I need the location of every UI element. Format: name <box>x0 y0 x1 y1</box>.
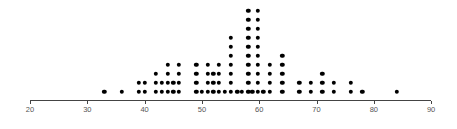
data-dot <box>154 72 158 76</box>
data-dot <box>194 90 198 94</box>
data-dot <box>331 81 335 85</box>
data-dot <box>211 72 215 76</box>
data-dot <box>256 81 260 85</box>
x-tick-label: 90 <box>427 105 435 114</box>
data-dot <box>320 81 324 85</box>
data-dot <box>154 81 158 85</box>
data-dot <box>246 18 250 22</box>
data-dot <box>280 54 284 58</box>
data-dot <box>119 90 123 94</box>
data-dot <box>177 72 181 76</box>
data-dot <box>267 90 271 94</box>
data-dot <box>205 63 209 67</box>
x-tick-label: 40 <box>140 105 148 114</box>
data-dot <box>205 81 209 85</box>
data-dot <box>246 63 250 67</box>
data-dot <box>194 72 198 76</box>
data-dot <box>165 72 169 76</box>
data-dot <box>246 36 250 40</box>
data-dot <box>280 72 284 76</box>
data-dot <box>177 90 181 94</box>
data-dot <box>142 90 146 94</box>
data-dot <box>246 54 250 58</box>
data-dot <box>256 72 260 76</box>
data-dot <box>102 90 106 94</box>
data-dot <box>211 90 215 94</box>
data-dot <box>320 90 324 94</box>
data-dot <box>228 36 232 40</box>
data-dot <box>395 90 399 94</box>
data-dot <box>246 27 250 31</box>
data-dot <box>256 45 260 49</box>
data-dot <box>205 72 209 76</box>
data-dot <box>223 90 227 94</box>
data-dot <box>256 90 260 94</box>
data-dot <box>246 9 250 13</box>
data-dot <box>228 45 232 49</box>
x-tick-label: 80 <box>370 105 378 114</box>
data-dot <box>320 72 324 76</box>
data-dot <box>171 90 175 94</box>
x-tick-label: 70 <box>312 105 320 114</box>
data-dot <box>171 81 175 85</box>
x-tick <box>431 101 432 104</box>
data-dot <box>246 72 250 76</box>
x-tick <box>87 101 88 104</box>
data-dot <box>165 63 169 67</box>
data-dot <box>267 72 271 76</box>
data-dot <box>177 63 181 67</box>
data-dot <box>177 81 181 85</box>
data-dot <box>280 90 284 94</box>
data-dot <box>256 27 260 31</box>
x-tick <box>202 101 203 104</box>
data-dot <box>228 72 232 76</box>
data-dot <box>205 90 209 94</box>
data-dot <box>256 18 260 22</box>
data-dot <box>256 36 260 40</box>
data-dot <box>217 90 221 94</box>
x-tick-label: 30 <box>83 105 91 114</box>
data-dot <box>250 90 254 94</box>
x-tick <box>317 101 318 104</box>
data-dot <box>160 81 164 85</box>
x-tick-label: 20 <box>26 105 34 114</box>
data-dot <box>349 90 353 94</box>
data-dot <box>309 90 313 94</box>
data-dot <box>228 81 232 85</box>
x-tick <box>145 101 146 104</box>
data-dot <box>267 63 271 67</box>
data-dot <box>331 90 335 94</box>
data-dot <box>228 54 232 58</box>
data-dot <box>211 81 215 85</box>
x-tick-label: 60 <box>255 105 263 114</box>
x-tick <box>259 101 260 104</box>
data-dot <box>228 63 232 67</box>
data-dot <box>267 81 271 85</box>
data-dot <box>194 81 198 85</box>
data-dot <box>280 81 284 85</box>
x-tick <box>30 101 31 104</box>
data-dot <box>217 63 221 67</box>
data-dot <box>200 90 204 94</box>
data-dot <box>309 81 313 85</box>
dot-plot: 2030405060708090 <box>0 0 457 129</box>
data-dot <box>261 90 265 94</box>
data-dot <box>246 45 250 49</box>
data-dot <box>217 81 221 85</box>
data-dot <box>142 81 146 85</box>
data-dot <box>137 81 141 85</box>
data-dot <box>256 63 260 67</box>
data-dot <box>137 90 141 94</box>
data-dot <box>246 81 250 85</box>
x-axis-line <box>30 100 431 101</box>
data-dot <box>280 63 284 67</box>
data-dot <box>165 90 169 94</box>
data-dot <box>256 54 260 58</box>
data-dot <box>217 72 221 76</box>
data-dot <box>228 90 232 94</box>
data-dot <box>160 90 164 94</box>
x-tick <box>374 101 375 104</box>
data-dot <box>154 90 158 94</box>
data-dot <box>194 63 198 67</box>
data-dot <box>349 81 353 85</box>
